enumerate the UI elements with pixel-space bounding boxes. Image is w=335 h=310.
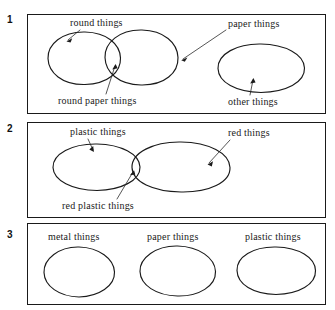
panel-3-number: 3: [7, 230, 13, 240]
panel-2-number: 2: [7, 124, 13, 134]
label-red-things: red things: [228, 128, 270, 138]
label-red-plastic-things: red plastic things: [62, 201, 134, 211]
panel-1-number: 1: [7, 15, 13, 25]
label-paper-things: paper things: [228, 19, 280, 29]
set-diagram-figure: 1 round things paper things round paper …: [0, 0, 335, 310]
label-other-things: other things: [228, 97, 278, 107]
label-plastic-things: plastic things: [245, 232, 301, 242]
label-paper-things: paper things: [147, 232, 199, 242]
label-plastic-things: plastic things: [70, 127, 126, 137]
label-metal-things: metal things: [48, 232, 100, 242]
label-round-paper-things: round paper things: [58, 96, 137, 106]
label-round-things: round things: [70, 18, 123, 28]
